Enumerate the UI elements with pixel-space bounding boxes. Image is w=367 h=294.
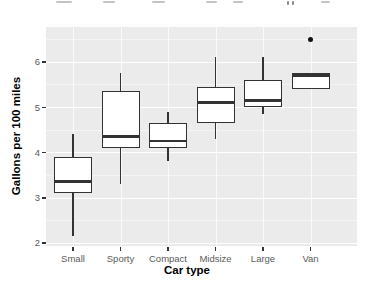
y-tick-mark [42, 61, 46, 63]
y-tick-mark [42, 242, 46, 244]
x-tick-label: Sporty [107, 253, 134, 264]
y-tick-mark [42, 197, 46, 199]
y-axis-title: Gallons per 100 miles [10, 77, 22, 195]
box-large [244, 80, 282, 107]
median-midsize [197, 101, 235, 104]
y-tick-label: 6 [0, 56, 40, 67]
artifact-mark [292, 1, 294, 5]
median-sporty [102, 135, 140, 138]
y-tick-label: 4 [0, 147, 40, 158]
median-large [244, 99, 282, 102]
artifact-mark [56, 1, 72, 3]
y-tick-label: 2 [0, 237, 40, 248]
x-tick-mark [72, 247, 74, 251]
cropped-text-artifact [0, 0, 367, 6]
box-small [54, 157, 92, 193]
artifact-mark [321, 1, 330, 3]
median-compact [149, 140, 187, 143]
box-midsize [197, 87, 235, 123]
x-tick-label: Small [61, 253, 85, 264]
artifact-mark [152, 1, 165, 3]
artifact-mark [287, 1, 289, 5]
median-small [54, 180, 92, 183]
artifact-mark [206, 1, 217, 3]
y-tick-label: 5 [0, 102, 40, 113]
y-tick-mark [42, 152, 46, 154]
boxplot-figure: Gallons per 100 miles Car type 23456Smal… [0, 0, 367, 294]
box-sporty [102, 91, 140, 148]
box-compact [149, 123, 187, 148]
x-tick-label: Midsize [199, 253, 231, 264]
x-tick-mark [215, 247, 217, 251]
x-tick-mark [262, 247, 264, 251]
artifact-mark [103, 1, 115, 3]
x-tick-mark [310, 247, 312, 251]
x-tick-mark [120, 247, 122, 251]
outlier-point [308, 37, 313, 42]
y-tick-mark [42, 107, 46, 109]
x-tick-label: Large [251, 253, 275, 264]
median-van [292, 74, 330, 77]
y-tick-label: 3 [0, 192, 40, 203]
x-tick-label: Van [302, 253, 318, 264]
gridline-vertical [311, 27, 312, 246]
artifact-mark [233, 1, 243, 3]
x-tick-mark [167, 247, 169, 251]
x-axis-title: Car type [164, 264, 210, 276]
x-tick-label: Compact [149, 253, 187, 264]
